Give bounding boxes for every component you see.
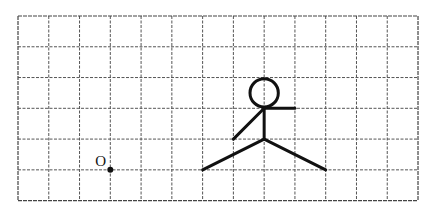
square-grid [18,16,418,201]
point-o-label: O [95,153,106,169]
grid-diagram: O [0,0,432,207]
figure-left-arm [233,108,264,139]
point-o-dot [107,167,113,173]
